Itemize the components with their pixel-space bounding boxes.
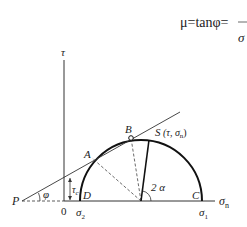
center-to-A-dashed [92,158,141,201]
point-P-label: P [11,194,20,208]
point-D-label: D [82,189,91,201]
formula-text: μ=tanφ= [180,15,229,30]
point-S-coords: (τ, σn) [163,127,187,140]
phi-label: φ [43,188,49,200]
sigma2-label: σ2 [76,206,85,221]
center-to-B-dashed [131,138,141,201]
two-alpha-label: 2 α [151,181,165,193]
sigma1-label: σ1 [199,206,208,221]
point-S-label: S [155,126,161,138]
formula-denominator: σ [238,30,245,45]
tau-c-arrow-down [68,196,72,200]
sigma-n-label: σn [219,194,229,210]
point-B-label: B [125,123,132,135]
point-C-label: C [192,189,200,201]
phi-angle-arc [39,193,41,201]
point-B-marker [129,136,134,141]
tau-c-arrow-up [68,178,72,182]
origin-label: 0 [61,205,67,217]
two-alpha-arc [143,191,152,201]
mohr-circle-diagram: μ=tanφ= σ τ σn φ τc 2 α P A B S (τ, σn) … [0,0,247,227]
point-A-label: A [83,148,91,160]
tau-c-label: τc [72,184,80,197]
tau-axis-label: τ [61,46,66,58]
mohr-semicircle [80,140,202,201]
